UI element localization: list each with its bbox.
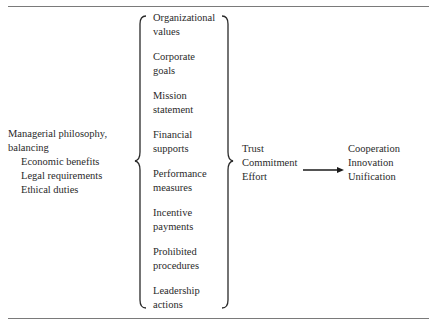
mechanism-mission-statement: Mission statement	[153, 89, 223, 128]
result-unification: Unification	[348, 170, 400, 184]
mechanism-organizational-values: Organizational values	[153, 11, 223, 50]
outcome-commitment: Commitment	[242, 156, 297, 170]
outcome-trust: Trust	[242, 142, 297, 156]
top-rule	[8, 6, 429, 7]
left-heading-line2: balancing	[8, 141, 107, 155]
result-cooperation: Cooperation	[348, 142, 400, 156]
mechanism-performance-measures: Performance measures	[153, 167, 223, 206]
mechanisms-list: Organizational values Corporate goals Mi…	[153, 11, 223, 323]
mechanism-corporate-goals: Corporate goals	[153, 50, 223, 89]
managerial-philosophy-block: Managerial philosophy, balancing Economi…	[8, 127, 107, 197]
mechanism-prohibited-procedures: Prohibited procedures	[153, 245, 223, 284]
left-subitem-economic: Economic benefits	[8, 155, 107, 169]
right-brace-icon	[222, 16, 233, 308]
left-brace-icon	[135, 16, 146, 308]
arrow-head-icon	[337, 167, 344, 173]
left-subitem-ethical: Ethical duties	[8, 183, 107, 197]
mechanism-financial-supports: Financial supports	[153, 128, 223, 167]
results-block: Cooperation Innovation Unification	[348, 142, 400, 184]
left-heading-line1: Managerial philosophy,	[8, 127, 107, 141]
outcome-effort: Effort	[242, 170, 297, 184]
left-subitem-legal: Legal requirements	[8, 169, 107, 183]
result-innovation: Innovation	[348, 156, 400, 170]
outcomes-block: Trust Commitment Effort	[242, 142, 297, 184]
mechanism-incentive-payments: Incentive payments	[153, 206, 223, 245]
bottom-rule	[8, 318, 429, 319]
